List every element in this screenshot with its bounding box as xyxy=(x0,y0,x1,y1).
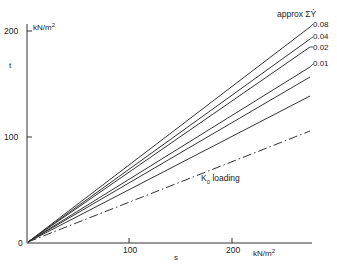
k0-loading-text: loading xyxy=(210,173,240,183)
x-unit-text: kN/m xyxy=(253,249,272,258)
y-tick-label-200: 200 xyxy=(4,27,18,36)
y-unit-label: kN/m2 xyxy=(33,24,55,32)
legend-title: approx ΣẎ xyxy=(277,10,316,19)
line-0.04 xyxy=(28,39,310,242)
line-0.02 xyxy=(28,47,310,242)
legend-label-0.01: 0.01 xyxy=(313,60,329,68)
line-unlabeled-1 xyxy=(28,77,310,242)
k0-loading-annotation: K0 loading xyxy=(201,174,240,185)
x-tick-label-200: 200 xyxy=(226,246,240,255)
legend-label-0.02: 0.02 xyxy=(313,44,329,52)
y-tick-label-0: 0 xyxy=(18,239,23,248)
chart-plot-area xyxy=(0,0,337,269)
legend-label-0.08: 0.08 xyxy=(313,21,329,29)
line-unlabeled-2 xyxy=(28,96,310,242)
legend-label-0.04: 0.04 xyxy=(313,33,329,41)
y-unit-text: kN/m xyxy=(33,23,52,32)
x-unit-sup: 2 xyxy=(272,248,275,254)
line-k0-loading xyxy=(28,131,310,242)
x-unit-label: kN/m2 xyxy=(253,250,275,258)
line-0.01 xyxy=(28,67,310,242)
y-unit-sup: 2 xyxy=(52,22,55,28)
y-tick-label-100: 100 xyxy=(4,133,18,142)
x-tick-label-100: 100 xyxy=(123,246,137,255)
x-axis-label: s xyxy=(174,254,178,262)
line-0.08 xyxy=(28,27,310,242)
y-axis-label: t xyxy=(9,62,11,70)
